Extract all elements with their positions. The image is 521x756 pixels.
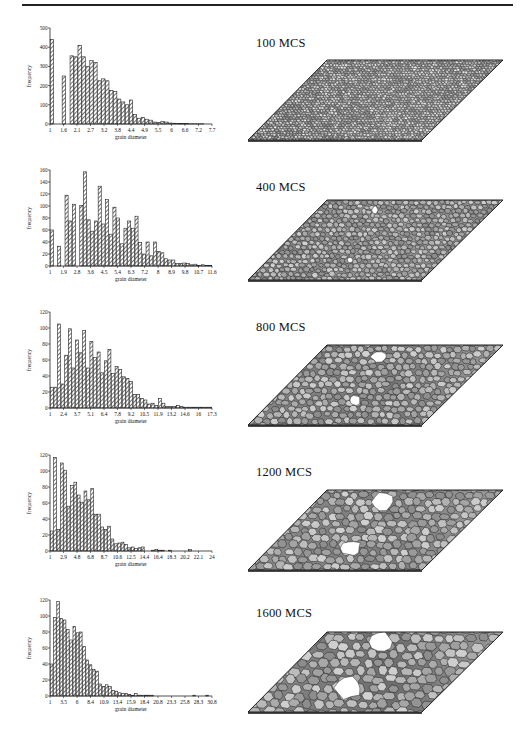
svg-text:20: 20 (42, 532, 48, 538)
svg-text:120: 120 (40, 309, 48, 315)
mcs-step-label: 1600 MCS (256, 606, 312, 621)
svg-text:3.8: 3.8 (114, 127, 121, 133)
svg-text:frequency: frequency (26, 207, 32, 229)
svg-text:9.2: 9.2 (128, 411, 135, 417)
mcs-step-label: 800 MCS (256, 320, 306, 335)
svg-text:5.4: 5.4 (114, 269, 121, 275)
svg-text:8.9: 8.9 (168, 269, 175, 275)
svg-text:1: 1 (49, 269, 52, 275)
svg-text:2.1: 2.1 (74, 127, 81, 133)
svg-text:100: 100 (40, 468, 48, 474)
grain-size-histogram: 020406080100120frequency13.568.410.913.4… (0, 590, 235, 730)
grain-size-histogram: 0100200300400500frequency11.62.12.73.23.… (0, 18, 235, 158)
svg-text:8.4: 8.4 (87, 699, 94, 705)
svg-text:frequency: frequency (26, 349, 32, 371)
svg-text:80: 80 (42, 629, 48, 635)
grain-size-histogram: 020406080100120frequency12.94.86.88.710.… (0, 445, 235, 585)
grain-size-histogram: 020406080100120140160frequency11.92.83.6… (0, 160, 235, 300)
svg-text:frequency: frequency (26, 65, 32, 87)
grain-microstructure-image (246, 343, 511, 429)
svg-text:140: 140 (40, 179, 48, 185)
svg-text:60: 60 (42, 645, 48, 651)
svg-text:3.6: 3.6 (87, 269, 94, 275)
svg-text:grain diameter: grain diameter (115, 276, 147, 282)
svg-text:frequency: frequency (26, 492, 32, 514)
svg-text:2.9: 2.9 (60, 554, 67, 560)
svg-text:1: 1 (49, 411, 52, 417)
svg-text:6: 6 (170, 127, 173, 133)
svg-text:16: 16 (196, 411, 202, 417)
svg-text:500: 500 (40, 25, 48, 31)
svg-text:80: 80 (42, 215, 48, 221)
svg-text:5.1: 5.1 (87, 411, 94, 417)
svg-text:0: 0 (45, 263, 48, 269)
svg-text:7.8: 7.8 (114, 411, 121, 417)
svg-text:8: 8 (157, 269, 160, 275)
svg-text:6.3: 6.3 (128, 269, 135, 275)
svg-text:20.2: 20.2 (180, 554, 190, 560)
mcs-step-label: 400 MCS (256, 180, 306, 195)
svg-text:200: 200 (40, 83, 48, 89)
svg-text:60: 60 (42, 227, 48, 233)
svg-text:grain diameter: grain diameter (115, 706, 147, 712)
svg-text:16.4: 16.4 (153, 554, 163, 560)
svg-text:40: 40 (42, 516, 48, 522)
svg-text:3.2: 3.2 (101, 127, 108, 133)
svg-text:100: 100 (40, 203, 48, 209)
svg-text:400: 400 (40, 44, 48, 50)
svg-text:6.8: 6.8 (87, 554, 94, 560)
svg-text:20: 20 (42, 389, 48, 395)
svg-text:4.5: 4.5 (101, 269, 108, 275)
grain-microstructure-image (246, 488, 511, 574)
svg-text:6.4: 6.4 (101, 411, 108, 417)
mcs-step-label: 1200 MCS (256, 465, 312, 480)
svg-text:80: 80 (42, 484, 48, 490)
svg-text:8.7: 8.7 (101, 554, 108, 560)
svg-text:1.6: 1.6 (60, 127, 67, 133)
svg-text:1.9: 1.9 (60, 269, 67, 275)
svg-text:60: 60 (42, 500, 48, 506)
svg-text:2.8: 2.8 (74, 269, 81, 275)
svg-text:13.2: 13.2 (167, 411, 177, 417)
svg-text:20: 20 (42, 677, 48, 683)
svg-text:17.3: 17.3 (207, 411, 217, 417)
svg-text:7.2: 7.2 (141, 269, 148, 275)
svg-text:4.9: 4.9 (141, 127, 148, 133)
svg-text:18.4: 18.4 (140, 699, 150, 705)
svg-text:60: 60 (42, 357, 48, 363)
svg-text:120: 120 (40, 597, 48, 603)
grain-microstructure-image (246, 630, 511, 716)
mcs-step-label: 100 MCS (256, 36, 306, 51)
svg-text:0: 0 (45, 405, 48, 411)
svg-text:24: 24 (209, 554, 215, 560)
svg-text:0: 0 (45, 693, 48, 699)
svg-text:30.8: 30.8 (207, 699, 217, 705)
svg-text:11.6: 11.6 (207, 269, 217, 275)
svg-text:2.7: 2.7 (87, 127, 94, 133)
svg-text:28.3: 28.3 (194, 699, 204, 705)
svg-text:1: 1 (49, 554, 52, 560)
svg-text:10.5: 10.5 (140, 411, 150, 417)
svg-text:18.3: 18.3 (167, 554, 177, 560)
svg-text:25.8: 25.8 (180, 699, 190, 705)
svg-text:15.9: 15.9 (126, 699, 136, 705)
svg-text:grain diameter: grain diameter (115, 134, 147, 140)
svg-text:11.9: 11.9 (153, 411, 163, 417)
svg-text:grain diameter: grain diameter (115, 561, 147, 567)
svg-text:160: 160 (40, 167, 48, 173)
svg-text:grain diameter: grain diameter (115, 418, 147, 424)
svg-text:0: 0 (45, 121, 48, 127)
svg-text:80: 80 (42, 341, 48, 347)
svg-text:13.4: 13.4 (113, 699, 123, 705)
svg-text:5.5: 5.5 (155, 127, 162, 133)
svg-text:1: 1 (49, 127, 52, 133)
svg-text:10.7: 10.7 (194, 269, 204, 275)
page-top-rule (22, 4, 513, 6)
svg-text:2.4: 2.4 (60, 411, 67, 417)
svg-text:40: 40 (42, 661, 48, 667)
svg-text:1: 1 (49, 699, 52, 705)
svg-text:300: 300 (40, 63, 48, 69)
svg-text:14.4: 14.4 (140, 554, 150, 560)
svg-text:3.5: 3.5 (60, 699, 67, 705)
svg-text:10.6: 10.6 (113, 554, 123, 560)
